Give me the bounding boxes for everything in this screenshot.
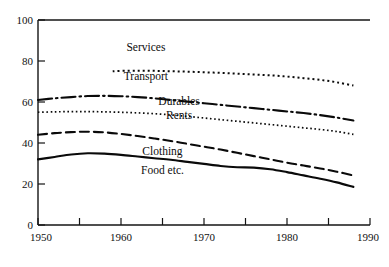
series-label-rents: Rents [166, 109, 193, 121]
chart-container: 020406080100 19501960197019801990 Servic… [0, 0, 389, 267]
y-tick-label: 80 [22, 55, 34, 67]
x-axis-ticks [38, 218, 370, 225]
x-axis-tick-labels: 19501960197019801990 [30, 231, 380, 243]
y-axis-tick-labels: 020406080100 [17, 14, 34, 231]
x-tick-label: 1990 [357, 231, 380, 243]
series-line-food-etc [38, 153, 353, 187]
y-tick-label: 40 [22, 137, 34, 149]
series-label-transport: Transport [124, 70, 169, 83]
chart-frame [38, 20, 370, 225]
y-tick-label: 20 [22, 178, 34, 190]
x-tick-label: 1950 [30, 231, 53, 243]
series-label-services: Services [126, 41, 165, 53]
series-label-clothing: Clothing [142, 145, 183, 158]
series-label-food-etc: Food etc. [141, 164, 184, 176]
series-lines [38, 71, 353, 187]
y-tick-label: 0 [28, 219, 34, 231]
y-tick-label: 60 [22, 96, 34, 108]
x-tick-label: 1970 [193, 231, 216, 243]
x-tick-label: 1960 [110, 231, 133, 243]
y-axis-ticks [38, 20, 45, 225]
y-tick-label: 100 [17, 14, 34, 26]
x-tick-label: 1980 [276, 231, 299, 243]
line-chart-svg: 020406080100 19501960197019801990 Servic… [0, 0, 389, 267]
series-label-durables: Durables [158, 95, 200, 107]
